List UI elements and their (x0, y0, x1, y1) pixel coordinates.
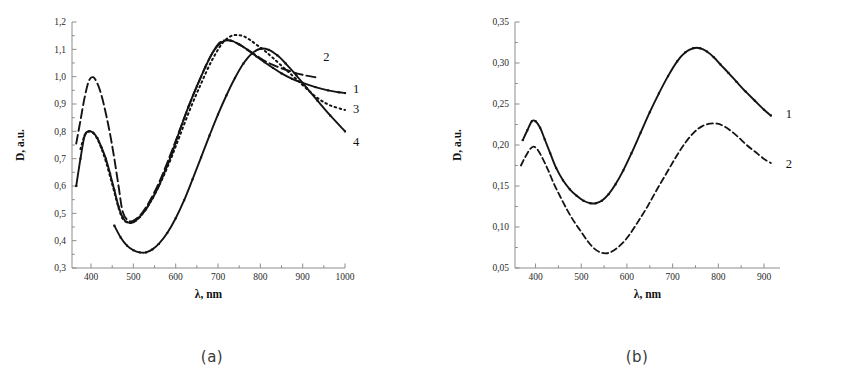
y-tick-label: 0,35 (492, 17, 509, 27)
curve-marker (225, 94, 227, 96)
curve-marker (589, 202, 591, 204)
curve-marker (327, 89, 329, 91)
curve-marker (576, 195, 578, 197)
y-tick-label: 0,8 (54, 127, 66, 137)
curve-marker (338, 91, 340, 93)
curve-marker (544, 138, 546, 140)
curve-marker (344, 92, 346, 94)
curve-marker (120, 236, 122, 238)
curve-marker (622, 169, 624, 171)
curve-marker (770, 114, 772, 116)
curve-marker (535, 120, 537, 122)
curve-marker (526, 129, 528, 131)
curve-marker (658, 92, 660, 94)
curve-marker (555, 167, 557, 169)
curve-marker (531, 120, 533, 122)
x-tick-label: 700 (211, 272, 226, 282)
y-tick-label: 0,7 (54, 154, 66, 164)
curve-marker (676, 60, 678, 62)
curve-marker (217, 113, 219, 115)
curve-marker (291, 78, 293, 80)
series-2 (521, 123, 771, 253)
curve-line-2 (521, 123, 771, 253)
curve-line-4 (114, 49, 345, 253)
curve-marker (344, 130, 346, 132)
curve-marker (132, 249, 134, 251)
curve-marker (113, 225, 115, 227)
curve-marker (126, 245, 128, 247)
y-tick-label: 0,5 (54, 209, 66, 219)
curve-marker (630, 152, 632, 154)
curve-marker (166, 232, 168, 234)
curve-label-2: 2 (323, 50, 329, 64)
curve-marker (175, 217, 177, 219)
curve-marker (200, 156, 202, 158)
curve-label-1: 1 (786, 107, 792, 121)
curve-marker (259, 48, 261, 50)
curve-marker (608, 193, 610, 195)
curve-marker (151, 248, 153, 250)
y-axis-title: D, a.u. (14, 129, 26, 161)
curve-marker (754, 100, 756, 102)
y-axis-title: D, a.u. (451, 129, 463, 161)
curve-marker (727, 72, 729, 74)
curve-marker (562, 179, 564, 181)
curve-marker (640, 132, 642, 134)
curve-marker (549, 152, 551, 154)
curve-marker (145, 251, 147, 253)
chart-a: 0,30,40,50,60,70,80,91,01,11,24005006007… (0, 0, 424, 320)
y-tick-label: 0,30 (492, 58, 509, 68)
panel-a-caption: (a) (0, 348, 424, 366)
panel-b: 0,050,100,150,200,250,300,35400500600700… (425, 0, 849, 374)
curve-marker (692, 47, 694, 49)
x-tick-label: 900 (757, 272, 772, 282)
curve-line-1 (523, 48, 771, 204)
y-tick-label: 0,9 (54, 99, 66, 109)
curve-marker (522, 139, 524, 141)
curve-marker (272, 67, 274, 69)
y-tick-label: 0,3 (54, 263, 66, 273)
y-tick-label: 0,6 (54, 181, 66, 191)
y-tick-label: 0,4 (54, 236, 66, 246)
y-tick-label: 1,0 (54, 72, 66, 82)
axis-spines (515, 22, 780, 268)
series-4 (113, 48, 346, 254)
curve-marker (209, 134, 211, 136)
curve-marker (306, 87, 308, 89)
curve-marker (601, 200, 603, 202)
curve-marker (706, 50, 708, 52)
panel-a: 0,30,40,50,60,70,80,91,01,11,24005006007… (0, 0, 424, 374)
x-tick-label: 900 (296, 272, 311, 282)
y-tick-label: 1,1 (54, 45, 66, 55)
curve-marker (569, 188, 571, 190)
y-tick-label: 0,15 (492, 181, 509, 191)
x-tick-label: 600 (620, 272, 635, 282)
curve-marker (314, 86, 316, 88)
curve-marker (699, 47, 701, 49)
curve-marker (316, 100, 318, 102)
x-tick-label: 500 (574, 272, 589, 282)
curve-label-3: 3 (353, 102, 359, 116)
curve-marker (295, 74, 297, 76)
series-2 (76, 40, 315, 221)
x-tick-label: 800 (253, 272, 268, 282)
y-tick-label: 0,25 (492, 99, 509, 109)
x-tick-label: 500 (126, 272, 141, 282)
x-axis-title: λ, nm (195, 288, 223, 300)
curve-marker (614, 183, 616, 185)
curve-marker (285, 62, 287, 64)
series-1 (522, 47, 772, 204)
curve-marker (667, 75, 669, 77)
curve-marker (745, 91, 747, 93)
figure-absorption-spectra: 0,30,40,50,60,70,80,91,01,11,24005006007… (0, 0, 849, 374)
x-tick-label: 400 (528, 272, 543, 282)
x-tick-label: 600 (169, 272, 184, 282)
curve-marker (276, 54, 278, 56)
curve-marker (649, 111, 651, 113)
curve-marker (79, 158, 81, 160)
x-tick-label: 700 (666, 272, 681, 282)
x-tick-label: 400 (84, 272, 99, 282)
curve-marker (75, 185, 77, 187)
curve-marker (192, 178, 194, 180)
curve-marker (213, 50, 215, 52)
